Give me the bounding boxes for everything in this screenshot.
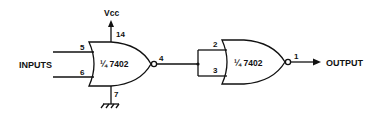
nor-gate-2-inversion-bubble xyxy=(285,59,290,64)
output-label: OUTPUT xyxy=(326,58,364,68)
junction-dot xyxy=(196,62,199,65)
nor-gate-1-inversion-bubble xyxy=(151,61,156,66)
schematic: Vcc 14 5 6 7 INPUTS ¼ 7402 4 2 3 ¼ 7402 … xyxy=(0,0,379,118)
pin-2-label: 2 xyxy=(213,40,218,49)
vcc-label: Vcc xyxy=(104,8,119,18)
pin-6-label: 6 xyxy=(80,68,85,77)
output-arrow-icon xyxy=(313,59,321,66)
gate-2-label: ¼ 7402 xyxy=(234,58,263,68)
ground-icon xyxy=(101,104,119,108)
circuit-diagram: Vcc 14 5 6 7 INPUTS ¼ 7402 4 2 3 ¼ 7402 … xyxy=(0,0,379,118)
vcc-arrow-icon xyxy=(108,20,114,27)
pin-14-label: 14 xyxy=(116,30,125,39)
pin-1-label: 1 xyxy=(294,52,299,61)
pin-4-label: 4 xyxy=(159,54,164,63)
inputs-label: INPUTS xyxy=(19,60,52,70)
pin-5-label: 5 xyxy=(80,43,85,52)
gate-1-label: ¼ 7402 xyxy=(100,59,129,69)
pin-3-label: 3 xyxy=(213,66,218,75)
pin-7-label: 7 xyxy=(114,90,119,99)
